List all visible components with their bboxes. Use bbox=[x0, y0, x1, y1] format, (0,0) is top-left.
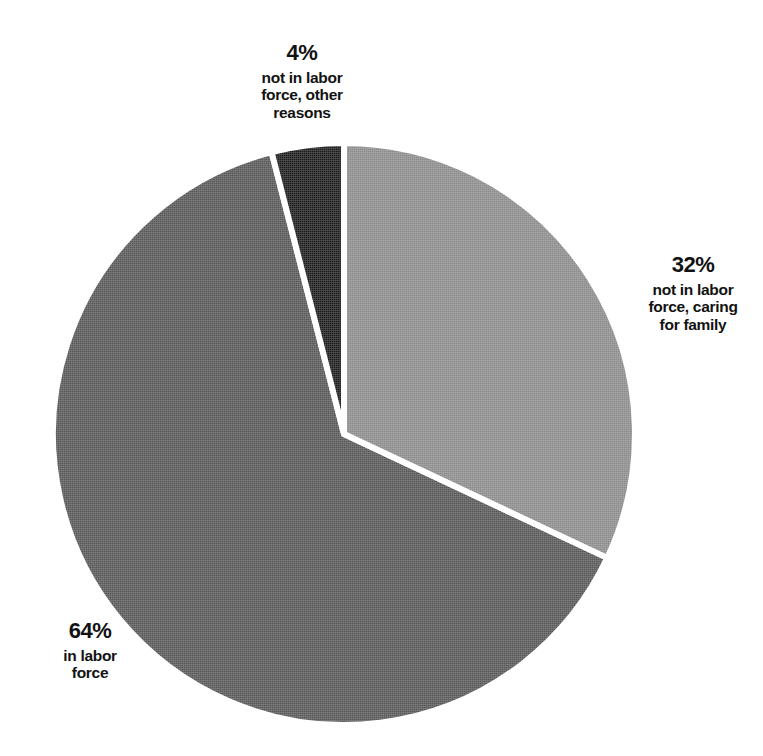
pie-label-in-labor-force: 64% in labor force bbox=[10, 618, 170, 682]
pie-label-other-reasons: 4% not in labor force, other reasons bbox=[212, 40, 392, 122]
pie-label-other-reasons-description: not in labor force, other reasons bbox=[212, 69, 392, 123]
pie-label-other-reasons-percent: 4% bbox=[212, 40, 392, 66]
pie-label-in-labor-force-percent: 64% bbox=[10, 618, 170, 644]
pie-label-caring-for-family-description: not in labor force, caring for family bbox=[623, 281, 763, 335]
pie-label-in-labor-force-description: in labor force bbox=[10, 647, 170, 683]
pie-label-caring-for-family-percent: 32% bbox=[623, 252, 763, 278]
pie-label-caring-for-family: 32% not in labor force, caring for famil… bbox=[623, 252, 763, 334]
pie-chart: 4% not in labor force, other reasons 32%… bbox=[0, 0, 763, 756]
